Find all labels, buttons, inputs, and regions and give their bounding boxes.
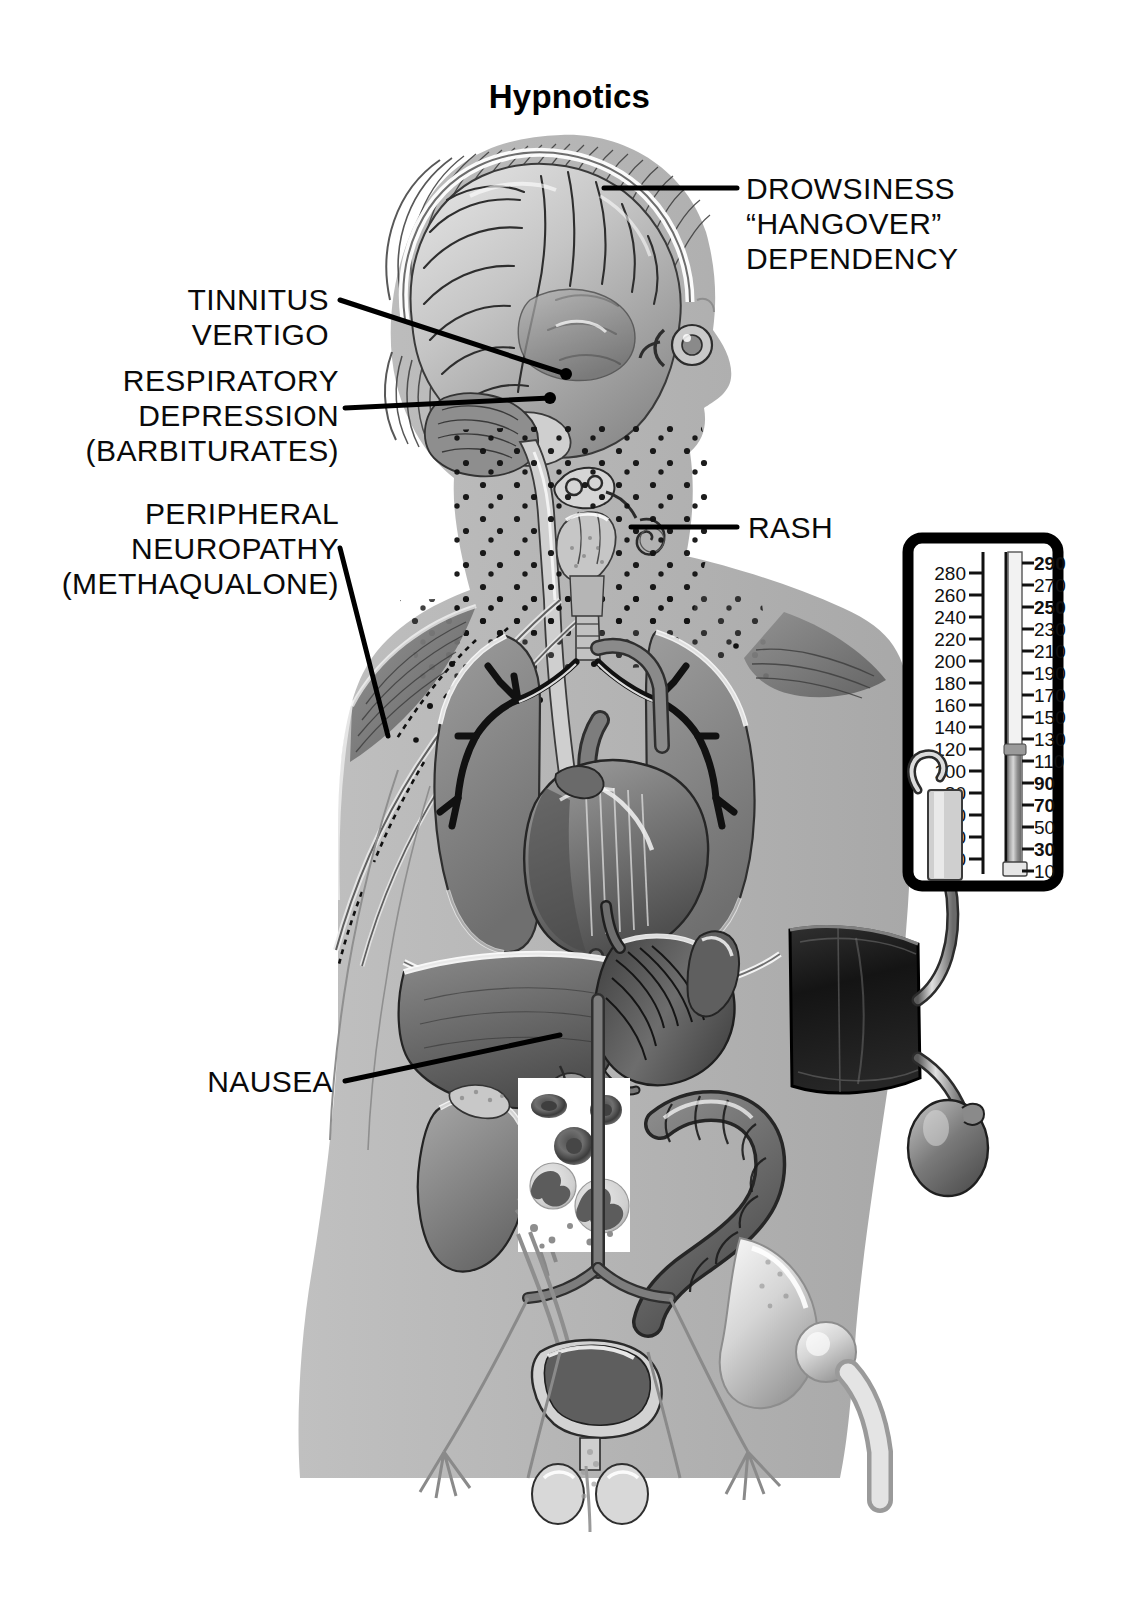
label-line: VERTIGO bbox=[187, 318, 329, 353]
label-line: “HANGOVER” bbox=[746, 207, 958, 242]
anatomical-figure: 280260 240220 200180 160140 120100 8060 … bbox=[0, 0, 1139, 1612]
svg-text:290: 290 bbox=[1034, 553, 1066, 574]
svg-text:260: 260 bbox=[934, 585, 966, 606]
svg-text:220: 220 bbox=[934, 629, 966, 650]
label-rash: RASH bbox=[748, 511, 833, 546]
blood-smear-inset bbox=[518, 1078, 630, 1252]
svg-text:280: 280 bbox=[934, 563, 966, 584]
svg-text:140: 140 bbox=[934, 717, 966, 738]
illustration-canvas: Hypnotics bbox=[0, 0, 1139, 1612]
label-line: PERIPHERAL bbox=[62, 497, 339, 532]
svg-text:160: 160 bbox=[934, 695, 966, 716]
svg-text:190: 190 bbox=[1034, 663, 1066, 684]
label-line: RESPIRATORY bbox=[86, 364, 339, 399]
label-nausea: NAUSEA bbox=[207, 1065, 333, 1100]
svg-text:90: 90 bbox=[1034, 773, 1055, 794]
svg-text:200: 200 bbox=[934, 651, 966, 672]
label-line: NEUROPATHY bbox=[62, 532, 339, 567]
tubing bbox=[918, 886, 962, 1112]
label-line: NAUSEA bbox=[207, 1065, 333, 1100]
svg-text:180: 180 bbox=[934, 673, 966, 694]
svg-text:150: 150 bbox=[1034, 707, 1066, 728]
label-line: DEPENDENCY bbox=[746, 242, 958, 277]
label-line: RASH bbox=[748, 511, 833, 546]
svg-text:130: 130 bbox=[1034, 729, 1066, 750]
svg-text:240: 240 bbox=[934, 607, 966, 628]
svg-text:30: 30 bbox=[1034, 839, 1055, 860]
label-drowsiness: DROWSINESS “HANGOVER” DEPENDENCY bbox=[746, 172, 958, 276]
svg-text:210: 210 bbox=[1034, 641, 1066, 662]
svg-text:110: 110 bbox=[1034, 751, 1064, 772]
label-respiratory-depression: RESPIRATORY DEPRESSION (BARBITURATES) bbox=[86, 364, 339, 468]
svg-text:270: 270 bbox=[1034, 575, 1066, 596]
svg-text:230: 230 bbox=[1034, 619, 1066, 640]
svg-text:10: 10 bbox=[1034, 861, 1055, 882]
svg-text:250: 250 bbox=[1034, 597, 1066, 618]
label-line: (BARBITURATES) bbox=[86, 434, 339, 469]
leader-dot-tinnitus bbox=[560, 368, 572, 380]
svg-text:170: 170 bbox=[1034, 685, 1066, 706]
cuff bbox=[790, 926, 920, 1093]
label-tinnitus-vertigo: TINNITUS VERTIGO bbox=[187, 283, 329, 353]
label-peripheral-neuropathy: PERIPHERAL NEUROPATHY (METHAQUALONE) bbox=[62, 497, 339, 601]
inflation-bulb bbox=[908, 1100, 988, 1196]
svg-text:70: 70 bbox=[1034, 795, 1055, 816]
label-line: DROWSINESS bbox=[746, 172, 958, 207]
label-line: (METHAQUALONE) bbox=[62, 567, 339, 602]
manometer-box: 280260 240220 200180 160140 120100 8060 … bbox=[908, 538, 1066, 886]
label-line: DEPRESSION bbox=[86, 399, 339, 434]
leader-dot-respiratory bbox=[544, 392, 556, 404]
svg-text:50: 50 bbox=[1034, 817, 1055, 838]
label-line: TINNITUS bbox=[187, 283, 329, 318]
